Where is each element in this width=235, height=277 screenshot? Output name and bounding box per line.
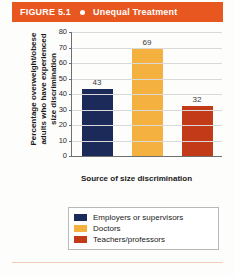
gridline [72, 32, 222, 33]
y-axis-tick-40: 40 [50, 90, 67, 98]
gridline [72, 94, 222, 95]
y-axis-tickmark [69, 110, 72, 111]
y-axis-tick-30: 30 [50, 106, 67, 114]
y-axis-tick-60: 60 [50, 59, 67, 67]
bar-value-label: 69 [143, 38, 152, 47]
y-axis-title-line-2: adults who have experienced [39, 33, 49, 144]
legend-item-3: Teachers/professors [74, 234, 213, 245]
legend-swatch-icon [74, 214, 87, 221]
legend-item-1: Employers or supervisors [74, 212, 213, 223]
bar-value-label: 32 [193, 95, 202, 104]
legend-swatch-icon [74, 225, 87, 232]
y-axis-tickmark [69, 94, 72, 95]
bar-3: 32 [182, 106, 213, 156]
legend-item-label: Doctors [93, 223, 121, 234]
chart-legend: Employers or supervisorsDoctorsTeachers/… [68, 207, 219, 250]
gridline [72, 110, 222, 111]
figure-title: Unequal Treatment [93, 7, 177, 17]
y-axis-tick-labels: 80706050403020100 [50, 32, 67, 156]
chart-area: Percentage overweight/obese adults who h… [12, 28, 223, 196]
footer-divider [12, 262, 223, 263]
y-axis-tickmark [69, 141, 72, 142]
legend-item-2: Doctors [74, 223, 213, 234]
figure-container: FIGURE 5.1 Unequal Treatment Percentage … [0, 0, 235, 277]
gridline [72, 141, 222, 142]
y-axis-tickmark [69, 156, 72, 157]
y-axis-title-line-1: Percentage overweight/obese [29, 33, 39, 146]
y-axis-tickmark [69, 48, 72, 49]
legend-item-label: Teachers/professors [93, 234, 165, 245]
bar-1: 43 [82, 89, 113, 156]
y-axis-tick-20: 20 [50, 121, 67, 129]
legend-swatch-icon [74, 236, 87, 243]
axis-area: 80706050403020100 436932 [50, 32, 222, 172]
x-axis-title: Source of size discrimination [50, 174, 223, 183]
figure-banner: FIGURE 5.1 Unequal Treatment [12, 2, 223, 22]
bullet-dot-icon [80, 10, 85, 15]
figure-number: FIGURE 5.1 [20, 7, 71, 17]
y-axis-tickmark [69, 79, 72, 80]
gridline [72, 125, 222, 126]
y-axis-tick-70: 70 [50, 44, 67, 52]
y-axis-tickmark [69, 125, 72, 126]
plot-canvas: 436932 [71, 32, 222, 157]
gridline [72, 48, 222, 49]
y-axis-tickmark [69, 32, 72, 33]
y-axis-tick-0: 0 [50, 152, 67, 160]
bar-value-label: 43 [93, 78, 102, 87]
y-axis-tick-50: 50 [50, 75, 67, 83]
legend-item-label: Employers or supervisors [93, 212, 183, 223]
gridline [72, 63, 222, 64]
y-axis-tick-80: 80 [50, 28, 67, 36]
gridline [72, 79, 222, 80]
y-axis-tick-10: 10 [50, 137, 67, 145]
y-axis-tickmark [69, 63, 72, 64]
